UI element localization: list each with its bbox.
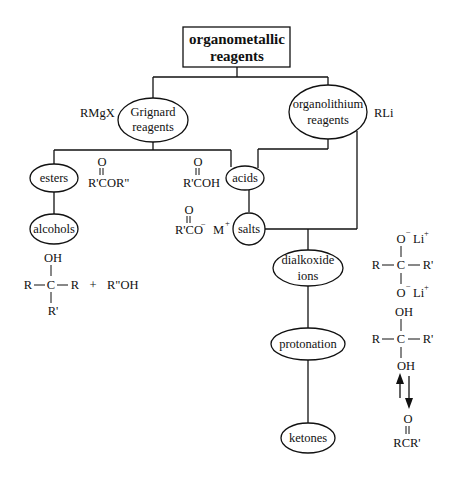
- node-organometallic-reagents: organometallic reagents: [183, 27, 290, 67]
- alcohol-right-r: R: [71, 278, 80, 292]
- dialkoxide-top-li: Li: [413, 232, 425, 246]
- diol-center-c: C: [397, 332, 405, 346]
- dialkoxide-left-r: R: [372, 258, 381, 272]
- ester-structure: O R'COR": [88, 155, 129, 190]
- ester-formula: R'COR": [88, 176, 129, 190]
- alcohol-byproduct: R"OH: [107, 278, 139, 292]
- alcohol-top-oh: OH: [44, 251, 62, 265]
- dialkoxide-top-o: O: [396, 232, 405, 246]
- node-acids: acids: [226, 166, 264, 190]
- acid-carbonyl-o: O: [193, 155, 202, 169]
- organolithium-label-line1: organolithium: [293, 97, 364, 111]
- root-label-line1: organometallic: [189, 31, 285, 47]
- grignard-label-line1: Grignard: [130, 105, 176, 119]
- diol-right-r-prime: R': [423, 332, 434, 346]
- salt-cation: M: [213, 223, 224, 237]
- acid-structure: O R'COH: [183, 155, 220, 190]
- alcohol-plus: +: [89, 278, 96, 292]
- dialkoxide-top-o-charge: −: [406, 227, 411, 237]
- organolithium-label-line2: reagents: [307, 113, 349, 127]
- node-organolithium-reagents: organolithium reagents: [289, 85, 367, 139]
- esters-label: esters: [40, 171, 69, 185]
- node-salts: salts: [233, 213, 265, 245]
- dialkoxide-right-r-prime: R': [423, 258, 434, 272]
- root-label-line2: reagents: [210, 48, 264, 64]
- dialkoxide-label-line1: dialkoxide: [282, 253, 335, 267]
- node-esters: esters: [30, 164, 78, 192]
- ketone-formula: RCR': [393, 436, 420, 450]
- dialkoxide-center-c: C: [397, 258, 405, 272]
- ketone-structure: O RCR': [393, 412, 420, 450]
- node-protonation: protonation: [271, 328, 345, 360]
- node-ketones: ketones: [281, 423, 335, 453]
- salts-label: salts: [238, 222, 260, 236]
- diol-top-oh: OH: [395, 305, 413, 319]
- alcohol-bottom-r-prime: R': [48, 304, 59, 318]
- acids-label: acids: [232, 171, 258, 185]
- salt-anion-charge: −: [201, 219, 206, 229]
- alcohol-center-c: C: [47, 278, 55, 292]
- ketone-carbonyl-o: O: [403, 412, 412, 426]
- dialkoxide-bottom-o-charge: −: [406, 281, 411, 291]
- diol-left-r: R: [372, 332, 381, 346]
- grignard-formula: RMgX: [80, 106, 115, 120]
- alcohol-left-r: R: [24, 278, 33, 292]
- arrow-down-icon: [405, 376, 413, 409]
- acid-formula: R'COH: [183, 176, 220, 190]
- node-grignard-reagents: Grignard reagents: [118, 98, 188, 142]
- ester-carbonyl-o: O: [97, 155, 106, 169]
- organometallic-reactions-diagram: organometallic reagents Grignard reagent…: [0, 0, 455, 478]
- salt-structure: O R'CO − M +: [175, 203, 230, 237]
- dialkoxide-ion-structure: O − Li + R C R' O − Li +: [372, 227, 433, 300]
- dialkoxide-label-line2: ions: [298, 269, 319, 283]
- organolithium-formula: RLi: [374, 106, 394, 120]
- equilibrium-arrows: [396, 373, 413, 409]
- gem-diol-structure: OH R C R' OH: [372, 305, 433, 373]
- node-alcohols: alcohols: [30, 214, 78, 244]
- protonation-label: protonation: [279, 337, 337, 351]
- alcohol-product-structure: OH R C R R' + R"OH: [24, 251, 139, 318]
- grignard-label-line2: reagents: [132, 120, 174, 134]
- salt-cation-charge: +: [225, 218, 230, 228]
- dialkoxide-bottom-li-charge: +: [424, 282, 429, 292]
- dialkoxide-bottom-o: O: [396, 286, 405, 300]
- diol-bottom-oh: OH: [397, 359, 415, 373]
- dialkoxide-top-li-charge: +: [424, 228, 429, 238]
- alcohols-label: alcohols: [33, 222, 75, 236]
- ketones-label: ketones: [289, 431, 327, 445]
- salt-formula: R'CO: [175, 223, 203, 237]
- dialkoxide-bottom-li: Li: [413, 286, 425, 300]
- arrow-up-icon: [396, 373, 404, 398]
- node-dialkoxide-ions: dialkoxide ions: [273, 250, 343, 286]
- salt-carbonyl-o: O: [184, 203, 193, 217]
